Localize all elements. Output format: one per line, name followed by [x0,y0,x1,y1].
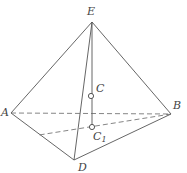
point-C1 [89,124,94,129]
label-B: B [172,99,181,112]
edge-EA [11,22,92,113]
edge-ED [74,22,92,160]
point-C [88,93,93,98]
label-A: A [0,106,9,119]
median-B-to-AD-hidden [39,114,171,135]
edge-EB [92,22,171,114]
edge-AD [11,113,74,160]
label-D: D [77,161,87,173]
label-C1: C1 [93,130,107,144]
label-C: C [96,82,105,95]
label-E: E [86,5,95,18]
edge-DB [74,114,171,160]
label-C1-subscript: 1 [101,135,106,144]
pyramid-diagram: E A B D C C1 [0,0,187,173]
edge-AB-hidden [11,113,171,114]
